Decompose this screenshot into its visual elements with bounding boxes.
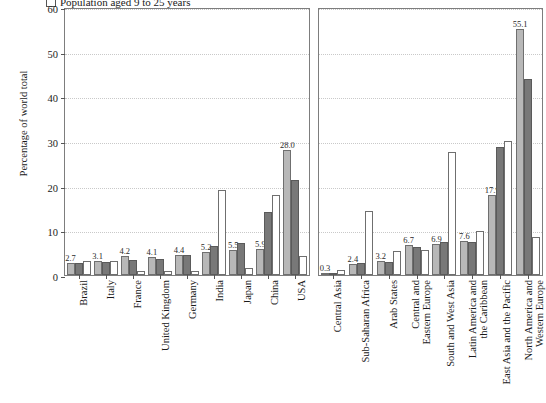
bar xyxy=(237,243,245,275)
x-axis-label-cell: Central Asia xyxy=(318,278,346,400)
bar xyxy=(448,152,456,275)
x-axis-labels-countries: BrazilItalyFranceUnited KingdomGermanyIn… xyxy=(64,278,310,400)
x-axis-category-label: China xyxy=(269,280,280,305)
bar-value-label: 7.6 xyxy=(459,231,470,241)
bar xyxy=(357,263,365,275)
x-axis-label-cell: Japan xyxy=(228,278,255,400)
bar xyxy=(83,261,91,275)
bar xyxy=(291,180,299,275)
bar xyxy=(440,242,448,275)
bar xyxy=(137,271,145,275)
bar-value-label: 3.1 xyxy=(92,251,103,261)
bar xyxy=(272,195,280,275)
x-axis-category-label: Latin America andthe Caribbean xyxy=(467,280,489,358)
x-axis-label-cell: North America andWestern Europe xyxy=(515,278,543,400)
bar-group: 4.2 xyxy=(119,9,146,275)
bar xyxy=(164,271,172,275)
bar: 4.1 xyxy=(148,257,156,275)
x-axis-category-label: Germany xyxy=(187,280,198,319)
bar-group: 4.1 xyxy=(146,9,173,275)
x-axis-category-label: Sub-Saharan Africa xyxy=(360,280,371,363)
bar-value-label: 28.0 xyxy=(280,140,295,150)
bar xyxy=(156,259,164,275)
bar xyxy=(365,211,373,275)
bar: 2.7 xyxy=(67,263,75,275)
bar-value-label: 4.1 xyxy=(147,247,158,257)
bar: 4.2 xyxy=(121,256,129,275)
bar: 3.1 xyxy=(94,261,102,275)
bar xyxy=(468,242,476,275)
bar: 5.5 xyxy=(229,250,237,275)
bar xyxy=(102,262,110,275)
x-axis-category-label: Japan xyxy=(242,280,253,304)
x-axis-label-cell: Germany xyxy=(173,278,200,400)
bar-group: 28.0 xyxy=(282,9,309,275)
plot-area-regions: 0.32.43.26.76.97.617.955.1 xyxy=(318,8,543,276)
bar xyxy=(413,247,421,275)
bar: 2.4 xyxy=(349,264,357,275)
bar-group: 2.4 xyxy=(347,9,375,275)
bar: 17.9 xyxy=(488,195,496,275)
x-axis-label-cell: Arab States xyxy=(374,278,402,400)
legend-label-0: Population aged 9 to 25 years xyxy=(60,0,190,8)
x-axis-category-label: Arab States xyxy=(388,280,399,329)
plot-area-countries: 0102030405060 2.73.14.24.14.45.25.55.928… xyxy=(64,8,310,276)
x-axis-category-label: South and West Asia xyxy=(445,280,456,367)
bar xyxy=(476,231,484,275)
bar xyxy=(245,268,253,275)
bar xyxy=(218,190,226,275)
x-axis-category-label: Italy xyxy=(105,280,116,299)
x-axis-label-cell: China xyxy=(255,278,282,400)
bar-group: 2.7 xyxy=(65,9,92,275)
bar xyxy=(385,262,393,275)
x-axis-label-cell: USA xyxy=(283,278,310,400)
bar-value-label: 55.1 xyxy=(513,19,528,29)
x-axis-label-cell: India xyxy=(201,278,228,400)
x-axis-category-label: East Asia and the Pacific xyxy=(501,280,512,384)
bar: 0.3 xyxy=(321,273,329,275)
bar-value-label: 4.4 xyxy=(174,245,185,255)
bar-value-label: 2.7 xyxy=(65,253,76,263)
x-axis-category-label: Central andEastern Europe xyxy=(410,280,432,344)
bar: 4.4 xyxy=(175,255,183,275)
bar: 6.9 xyxy=(432,244,440,275)
bar-group: 0.3 xyxy=(319,9,347,275)
bar-group: 6.7 xyxy=(403,9,431,275)
bar-value-label: 6.7 xyxy=(403,235,414,245)
bar xyxy=(191,271,199,275)
bar: 7.6 xyxy=(460,241,468,275)
bar: 6.7 xyxy=(405,245,413,275)
bar-group: 5.9 xyxy=(255,9,282,275)
bar-groups-regions: 0.32.43.26.76.97.617.955.1 xyxy=(319,9,542,275)
x-axis-category-label: India xyxy=(214,280,225,302)
bar xyxy=(393,251,401,275)
bar xyxy=(504,141,512,275)
y-axis-title: Percentage of world total xyxy=(18,44,29,204)
x-axis-label-cell: Brazil xyxy=(64,278,91,400)
x-axis-label-cell: United Kingdom xyxy=(146,278,173,400)
bar xyxy=(524,79,532,275)
bar: 5.2 xyxy=(202,252,210,275)
bar xyxy=(183,255,191,275)
bar-group: 7.6 xyxy=(458,9,486,275)
figure-container: Population aged 9 to 25 years Percentage… xyxy=(0,0,546,403)
bar-value-label: 3.2 xyxy=(375,251,386,261)
bar: 28.0 xyxy=(283,150,291,275)
x-axis-category-label: North America andWestern Europe xyxy=(523,280,545,360)
bar: 55.1 xyxy=(516,29,524,275)
bar xyxy=(264,212,272,275)
x-axis-category-label: USA xyxy=(296,280,307,301)
bar xyxy=(110,261,118,275)
panel-regions: 0.32.43.26.76.97.617.955.1 xyxy=(318,8,543,276)
x-axis-label-cell: East Asia and the Pacific xyxy=(487,278,515,400)
x-axis-label-cell: Central andEastern Europe xyxy=(402,278,430,400)
bar-value-label: 4.2 xyxy=(119,246,130,256)
bar: 5.9 xyxy=(256,249,264,275)
bar xyxy=(210,246,218,275)
bar-value-label: 0.3 xyxy=(320,263,331,273)
bar-group: 3.2 xyxy=(375,9,403,275)
x-axis-label-cell: Sub-Saharan Africa xyxy=(346,278,374,400)
bar xyxy=(299,256,307,275)
bar xyxy=(421,250,429,275)
bar-group: 6.9 xyxy=(431,9,459,275)
